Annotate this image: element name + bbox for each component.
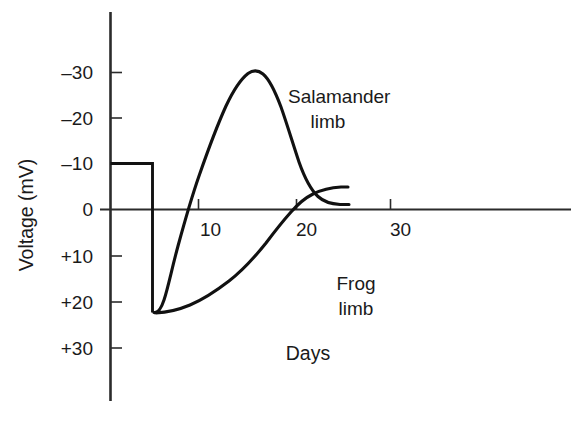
x-tick-label-20: 20 [296,219,317,240]
x-tick-label-30: 30 [390,219,411,240]
chart-figure: –30 –20 –10 0 +10 +20 +30 10 20 30 Volta… [0,0,588,429]
frog-limb-label-line1: Frog [336,273,375,294]
y-axis-title: Voltage (mV) [15,159,37,272]
salamander-limb-label-line2: limb [311,111,346,132]
y-tick-label-neg10: –10 [61,153,93,174]
y-tick-label-pos30: +30 [61,338,93,359]
y-tick-label-neg30: –30 [61,62,93,83]
frog-limb-curve [156,187,348,313]
y-tick-label-pos20: +20 [61,292,93,313]
y-tick-label-pos10: +10 [61,246,93,267]
salamander-limb-label-line1: Salamander [288,86,391,107]
baseline-step-curve [111,164,153,313]
plot-area: –30 –20 –10 0 +10 +20 +30 10 20 30 Volta… [0,0,588,429]
frog-limb-label-line2: limb [339,298,374,319]
y-tick-label-zero: 0 [82,199,93,220]
y-tick-label-neg20: –20 [61,108,93,129]
x-tick-label-10: 10 [200,219,221,240]
x-axis-title: Days [286,342,331,364]
